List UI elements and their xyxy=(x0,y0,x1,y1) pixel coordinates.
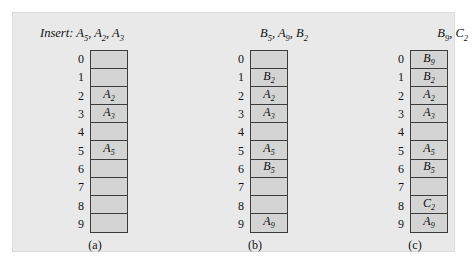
slot-value: A3 xyxy=(423,106,434,121)
slot-index-label: 7 xyxy=(384,178,404,196)
slot-value: A5 xyxy=(263,142,274,157)
slot-index-label: 0 xyxy=(64,50,84,68)
table-slot xyxy=(251,196,287,214)
slot-index-label: 2 xyxy=(64,87,84,105)
column-a-index-list: 0123456789 xyxy=(64,50,84,233)
table-slot: A2 xyxy=(411,87,447,105)
header-token: B9 xyxy=(437,26,449,40)
slot-value-subscript: 9 xyxy=(431,58,435,67)
hash-table-column-a: Insert: A5, A2, A3 0123456789 A2A3A5 (a) xyxy=(20,12,170,252)
slot-index-label: 2 xyxy=(384,87,404,105)
table-slot xyxy=(411,178,447,196)
slot-value-subscript: 2 xyxy=(271,94,275,103)
slot-index-label: 6 xyxy=(224,160,244,178)
slot-index-label: 9 xyxy=(224,215,244,233)
slot-index-label: 1 xyxy=(384,68,404,86)
header-token: B2 xyxy=(296,26,308,40)
header-token: B5 xyxy=(260,26,272,40)
slot-value-subscript: 5 xyxy=(271,149,275,158)
header-token-subscript: 3 xyxy=(120,33,124,43)
slot-value: A2 xyxy=(103,88,114,103)
header-token: Insert: xyxy=(40,26,76,40)
slot-index-label: 8 xyxy=(224,196,244,214)
table-slot xyxy=(91,123,127,141)
column-b-table: 0123456789 B2A2A3A5B5A9 xyxy=(250,50,288,233)
slot-index-label: 8 xyxy=(64,196,84,214)
slot-index-label: 5 xyxy=(64,141,84,159)
slot-value-subscript: 2 xyxy=(431,94,435,103)
column-b-caption: (b) xyxy=(180,238,330,253)
header-token-subscript: 2 xyxy=(464,33,468,43)
table-slot xyxy=(91,178,127,196)
table-slot: C2 xyxy=(411,196,447,214)
slot-index-label: 3 xyxy=(384,105,404,123)
slot-index-label: 0 xyxy=(384,50,404,68)
slot-value-subscript: 2 xyxy=(431,203,435,212)
caption-text: (b) xyxy=(248,238,262,253)
table-slot xyxy=(251,123,287,141)
slot-value-subscript: 5 xyxy=(431,149,435,158)
slot-value: A9 xyxy=(423,215,434,230)
slot-index-label: 4 xyxy=(224,123,244,141)
slot-value: B9 xyxy=(423,52,434,67)
column-c-table: 0123456789 B9B2A2A3A5B5C2A9 xyxy=(410,50,448,233)
header-token: A3 xyxy=(112,26,124,40)
slot-value: C2 xyxy=(423,197,435,212)
slot-index-label: 4 xyxy=(384,123,404,141)
slot-value-subscript: 2 xyxy=(431,76,435,85)
table-slot: A2 xyxy=(91,87,127,105)
table-slot: A2 xyxy=(251,87,287,105)
table-slot xyxy=(91,69,127,87)
caption-text: (a) xyxy=(88,238,101,253)
hash-table-column-c: B9, C2 0123456789 B9B2A2A3A5B5C2A9 (c) xyxy=(340,12,472,252)
slot-index-label: 6 xyxy=(384,160,404,178)
slot-index-label: 8 xyxy=(384,196,404,214)
slot-index-label: 4 xyxy=(64,123,84,141)
table-slot xyxy=(91,214,127,232)
slot-index-label: 2 xyxy=(224,87,244,105)
slot-index-label: 3 xyxy=(64,105,84,123)
column-a-cells: A2A3A5 xyxy=(90,50,128,233)
column-c-caption: (c) xyxy=(340,238,472,253)
table-slot: A3 xyxy=(411,105,447,123)
slot-value-subscript: 3 xyxy=(431,113,435,122)
table-slot: A3 xyxy=(251,105,287,123)
slot-index-label: 9 xyxy=(64,215,84,233)
header-token: A2 xyxy=(94,26,106,40)
column-b-header: B5, A9, B2 xyxy=(180,24,308,42)
slot-index-label: 1 xyxy=(224,68,244,86)
slot-index-label: 7 xyxy=(224,178,244,196)
slot-index-label: 3 xyxy=(224,105,244,123)
slot-value: B2 xyxy=(423,70,434,85)
slot-index-label: 7 xyxy=(64,178,84,196)
column-a-header: Insert: A5, A2, A3 xyxy=(40,24,124,42)
slot-index-label: 1 xyxy=(64,68,84,86)
header-token: C2 xyxy=(455,26,468,40)
table-slot: A9 xyxy=(411,214,447,232)
column-b-cells: B2A2A3A5B5A9 xyxy=(250,50,288,233)
hash-table-column-b: B5, A9, B2 0123456789 B2A2A3A5B5A9 (b) xyxy=(180,12,330,252)
column-a-table: 0123456789 A2A3A5 xyxy=(90,50,128,233)
table-slot: B5 xyxy=(411,160,447,178)
column-c-cells: B9B2A2A3A5B5C2A9 xyxy=(410,50,448,233)
header-token-subscript: 2 xyxy=(304,33,308,43)
slot-index-label: 5 xyxy=(384,141,404,159)
table-slot xyxy=(91,196,127,214)
slot-value: A3 xyxy=(263,106,274,121)
table-slot: B2 xyxy=(411,69,447,87)
slot-value: B2 xyxy=(263,70,274,85)
slot-value-subscript: 3 xyxy=(111,113,115,122)
slot-index-label: 0 xyxy=(224,50,244,68)
slot-value: A9 xyxy=(263,215,274,230)
slot-value: A5 xyxy=(103,142,114,157)
table-slot xyxy=(251,51,287,69)
slot-value-subscript: 5 xyxy=(271,167,275,176)
slot-value-subscript: 9 xyxy=(271,222,275,231)
table-slot xyxy=(91,160,127,178)
slot-value: A2 xyxy=(423,88,434,103)
column-c-header: B9, C2 xyxy=(340,24,468,42)
slot-value-subscript: 5 xyxy=(111,149,115,158)
table-slot xyxy=(251,178,287,196)
slot-value: B5 xyxy=(263,160,274,175)
table-slot xyxy=(411,123,447,141)
